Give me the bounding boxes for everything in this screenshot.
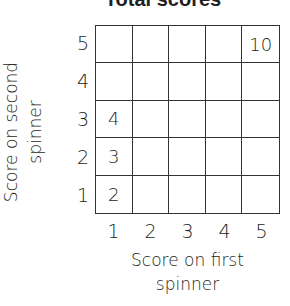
grid-cell bbox=[169, 63, 206, 100]
grid-cell bbox=[96, 63, 133, 100]
x-tick-3: 3 bbox=[169, 220, 206, 242]
grid-cell: 2 bbox=[96, 176, 133, 213]
grid-cell bbox=[242, 176, 279, 213]
grid-cell bbox=[206, 63, 243, 100]
y-tick-4: 4 bbox=[74, 70, 92, 92]
grid-cell bbox=[242, 63, 279, 100]
grid-cell bbox=[133, 101, 170, 138]
x-tick-1: 1 bbox=[95, 220, 132, 242]
x-tick-2: 2 bbox=[132, 220, 169, 242]
chart-title: Total scores bbox=[18, 0, 290, 11]
grid-cell bbox=[206, 101, 243, 138]
y-axis-title: Score on second spinner bbox=[0, 37, 47, 227]
grid-cell bbox=[242, 101, 279, 138]
y-tick-2: 2 bbox=[74, 146, 92, 168]
grid-cell bbox=[169, 138, 206, 175]
x-tick-4: 4 bbox=[206, 220, 243, 242]
grid-cell bbox=[133, 138, 170, 175]
grid-cell bbox=[133, 63, 170, 100]
x-axis-title-line1: Score on first bbox=[95, 248, 280, 272]
y-axis-title-line2: spinner bbox=[23, 37, 47, 227]
score-grid: 10 4 3 2 bbox=[95, 25, 280, 214]
y-tick-5: 5 bbox=[74, 32, 92, 54]
y-tick-1: 1 bbox=[74, 184, 92, 206]
y-tick-3: 3 bbox=[74, 108, 92, 130]
x-axis-title-line2: spinner bbox=[95, 272, 280, 296]
grid-cell bbox=[133, 176, 170, 213]
x-tick-5: 5 bbox=[243, 220, 280, 242]
grid-cell bbox=[133, 26, 170, 63]
grid-cell bbox=[169, 101, 206, 138]
grid-cell bbox=[206, 176, 243, 213]
grid-cell bbox=[206, 138, 243, 175]
grid-cell: 4 bbox=[96, 101, 133, 138]
grid-cell: 3 bbox=[96, 138, 133, 175]
grid-cell bbox=[169, 26, 206, 63]
grid-cell bbox=[169, 176, 206, 213]
grid-cell bbox=[242, 138, 279, 175]
grid-cell bbox=[96, 26, 133, 63]
y-axis-title-line1: Score on second bbox=[0, 37, 23, 227]
grid-cell bbox=[206, 26, 243, 63]
grid-cell: 10 bbox=[242, 26, 279, 63]
x-axis-title: Score on first spinner bbox=[95, 248, 280, 296]
